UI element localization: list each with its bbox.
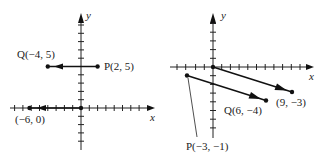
vector-pq-arrow-icon xyxy=(249,92,262,99)
point-p xyxy=(95,64,99,68)
x-axis-label: x xyxy=(308,70,314,82)
vector-diagrams: y x Q(−4, 5) P(2, 5) (−6, 0) xyxy=(0,0,320,161)
y-axis-label: y xyxy=(85,9,91,21)
x-axis-label: x xyxy=(149,111,155,123)
point-p xyxy=(185,73,189,77)
left-graph: y x Q(−4, 5) P(2, 5) (−6, 0) xyxy=(10,9,155,150)
label-q: Q(6, −4) xyxy=(224,104,262,117)
point-q xyxy=(46,64,50,68)
vector-origin-arrow-icon xyxy=(37,105,46,111)
vector-origin-arrow-icon xyxy=(275,84,288,91)
point-end xyxy=(27,106,31,110)
y-axis-arrow-icon xyxy=(78,13,84,23)
y-axis-label: y xyxy=(220,9,226,21)
vector-pq-arrow-icon xyxy=(54,64,63,70)
label-end: (9, −3) xyxy=(276,96,306,109)
label-p: P(2, 5) xyxy=(104,60,134,73)
right-graph: y x Q(6, −4) (9, −3) P(−3, −1) xyxy=(170,9,314,153)
label-q: Q(−4, 5) xyxy=(17,48,55,61)
point-origin xyxy=(211,65,215,69)
label-end: (−6, 0) xyxy=(15,113,45,126)
point-origin xyxy=(79,106,83,110)
point-q xyxy=(264,98,268,102)
label-leader-line xyxy=(188,78,197,137)
label-p: P(−3, −1) xyxy=(186,140,229,153)
y-axis-arrow-icon xyxy=(210,13,216,23)
point-end xyxy=(290,90,294,94)
